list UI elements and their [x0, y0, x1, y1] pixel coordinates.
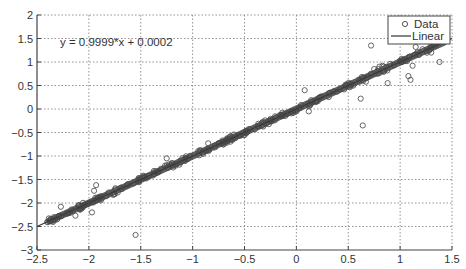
data-point-outlier	[164, 156, 169, 161]
y-tick-label: 0.5	[18, 80, 33, 92]
y-tick-label: −1.5	[11, 174, 33, 186]
data-point-outlier	[58, 204, 63, 209]
data-point-outlier	[91, 188, 96, 193]
x-tick-label: −0.5	[234, 253, 256, 265]
x-tick-label: −2	[83, 253, 96, 265]
scatter-plot-figure: −2.5−2−1.5−1−0.500.511.5−3−2.5−2−1.5−1−0…	[0, 0, 466, 269]
data-point-outlier	[94, 183, 99, 188]
fit-equation-annotation: y = 0.9999*x + 0.0002	[60, 36, 173, 48]
x-tick-label: 0	[293, 253, 299, 265]
data-point-outlier	[413, 44, 418, 49]
x-tick-label: 1	[397, 253, 403, 265]
data-point-outlier	[385, 81, 390, 86]
y-tick-label: 1	[27, 56, 33, 68]
data-point-outlier	[89, 210, 94, 215]
y-tick-label: 2	[27, 9, 33, 21]
legend-label-linear: Linear	[412, 30, 444, 42]
y-tick-label: −3	[20, 244, 33, 256]
y-tick-label: −2.5	[11, 221, 33, 233]
data-point-outlier	[306, 109, 311, 114]
plot-canvas: −2.5−2−1.5−1−0.500.511.5−3−2.5−2−1.5−1−0…	[0, 0, 466, 269]
x-tick-label: −1	[186, 253, 199, 265]
y-tick-label: −1	[20, 150, 33, 162]
y-tick-label: 0	[27, 103, 33, 115]
x-tick-label: −1.5	[130, 253, 152, 265]
x-tick-label: 0.5	[341, 253, 356, 265]
data-point-outlier	[410, 63, 415, 68]
y-tick-label: −2	[20, 197, 33, 209]
data-point-outlier	[302, 88, 307, 93]
data-point-outlier	[360, 123, 365, 128]
y-tick-label: −0.5	[11, 127, 33, 139]
legend-label-data: Data	[414, 18, 439, 30]
y-tick-label: 1.5	[18, 33, 33, 45]
data-point-outlier	[73, 213, 78, 218]
legend: Data Linear	[388, 16, 450, 44]
x-tick-label: 1.5	[444, 253, 459, 265]
data-point-outlier	[133, 232, 138, 237]
data-point-outlier	[368, 43, 373, 48]
data-point-outlier	[358, 96, 363, 101]
